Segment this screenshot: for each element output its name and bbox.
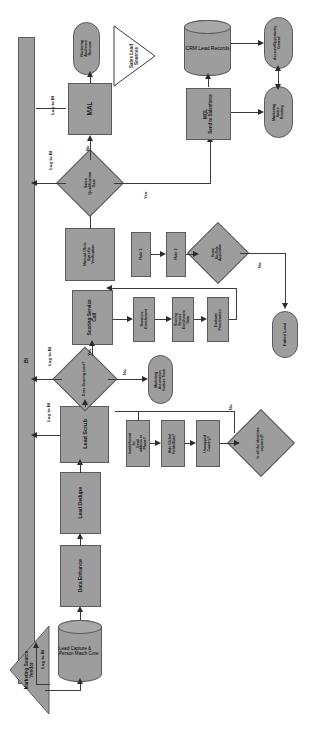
rule-2-label: Rule 2 <box>174 249 178 260</box>
bi-lane: BI <box>18 37 35 684</box>
edge-rule1-rule2 <box>151 254 160 255</box>
scoring-service-call-node: Scoring Service Call <box>72 290 113 345</box>
crm-lead-records-node: CRM Lead Records <box>184 20 231 76</box>
sales-lead-sources-label: Sales Lead Sources <box>112 25 157 87</box>
edge-label-log-to-bi-3: Log to BI <box>41 349 60 363</box>
lead-capture-label: Lead Capture & Person Match Core <box>59 646 101 656</box>
arrow-call-enrich <box>127 316 133 322</box>
edge-vendor-capture <box>45 690 80 691</box>
mql-send-node: MQL Send to Salesforce <box>186 88 231 140</box>
marketing-source-vendor-label: Marketing Source Vendor <box>8 625 50 715</box>
edge-label-yes-3: Yes <box>87 346 94 359</box>
identities-gate-label: Is all the identities captured? <box>237 419 285 467</box>
arrow-vendor-capture <box>77 678 83 684</box>
marketing-source-vendor-text: Marketing Source Vendor <box>24 651 34 690</box>
arrow-routing-account-up <box>275 65 281 71</box>
edge-vendor-capture-v <box>80 683 81 691</box>
arrow-scrub2-scrub3 <box>190 440 196 446</box>
bi-lane-label: BI <box>24 358 29 363</box>
crm-lead-records-label: CRM Lead Records <box>186 45 230 51</box>
scrub-step-2-label: Hide Global Fields/Data? <box>169 433 177 455</box>
mql-send-label: MQL Send to Salesforce <box>204 94 214 134</box>
mal-label: MAL <box>86 102 93 116</box>
edge-rule2-gate <box>186 254 193 255</box>
scrub-step-1-node: Invalid format for Email address or Phon… <box>126 420 150 467</box>
manual-rule-verification-node: Manual / Rule Specific Verification <box>65 228 115 281</box>
scoring-exists-gate: Does Scoring exist? <box>62 356 108 402</box>
edge-label-no-3: No <box>257 258 263 272</box>
edge-enhance-dedupe <box>80 538 81 546</box>
edge-label-log-to-bi-mal: Log to BI <box>44 98 63 112</box>
scrub-step-3-node: Unmapped Country? <box>196 420 220 467</box>
edge-scrub-rail <box>115 411 235 412</box>
edge-mql-crm <box>208 78 209 87</box>
edge-mal-bi <box>36 108 66 109</box>
evaluate-prioritization-label: Evaluate Prioritization <box>214 309 222 330</box>
edge-scrub-rail-v1 <box>138 411 139 421</box>
edge-gate-failed-h <box>240 253 285 254</box>
edge-label-no-1: No <box>85 142 91 155</box>
arrow-rule2-gate <box>193 251 199 257</box>
arrow-rule1-rule2 <box>160 251 166 257</box>
arrow-enhance-dedupe <box>77 533 83 539</box>
edge-vendor-to-bi <box>36 684 50 685</box>
lead-scrub-node: Lead Scrub <box>60 406 109 463</box>
rule-2-node: Rule 2 <box>166 232 186 277</box>
services-enrichment-node: Services Enrichment <box>133 297 155 342</box>
edge-gate-nurture <box>108 379 142 380</box>
edge-salesgate-mql-v <box>210 141 211 184</box>
arrow-scrub-gate <box>82 399 88 405</box>
scrub-step-3-label: Unmapped Country? <box>204 433 212 455</box>
services-enrichment-label: Services Enrichment <box>140 310 148 330</box>
arrow-scrub-bi <box>31 432 37 438</box>
arrow-vendor-to-bi <box>33 642 39 648</box>
score-no-rule-gate: Score No Rule Applicable <box>196 231 240 275</box>
arrow-crm-account <box>258 40 264 46</box>
edge-eval-rail-h <box>229 319 237 320</box>
edge-salesgate-mql-h <box>114 183 210 184</box>
arrow-enrich-data <box>166 316 172 322</box>
marketing-source-vendor: Marketing Source Vendor <box>8 625 50 715</box>
edge-salesgate-bi <box>36 183 66 184</box>
scrub-step-2-node: Hide Global Fields/Data? <box>161 420 185 467</box>
sales-qualification-gate-label: Sales Qualification Gate <box>66 159 114 207</box>
scoring-service-call-label: Scoring Service Call <box>87 299 98 335</box>
sales-qualification-gate: Sales Qualification Gate <box>66 159 114 207</box>
nurture-track-node: Marketing Automation Nurture Track <box>148 355 173 404</box>
nurture-audience-remove-label: Nurturing Audience Remove <box>80 36 93 61</box>
sales-qualification-gate-text: Sales Qualification Gate <box>84 162 96 204</box>
arrow-mql-routing <box>258 109 264 115</box>
edge-label-no-4: No <box>122 365 128 379</box>
edge-label-yes-1: Yes <box>143 188 151 202</box>
lead-dedupe-label: Lead Dedupe <box>78 487 84 518</box>
marketing-sales-routing-label: Marketing Sales Routing <box>272 99 285 126</box>
scoring-exists-gate-text: Does Scoring exist? <box>83 359 87 399</box>
arrow-data-eval <box>201 316 207 322</box>
arrow-scrub3-identities <box>234 440 240 446</box>
nurture-track-label: Marketing Automation Nurture Track <box>155 368 167 391</box>
arrow-eval-rail <box>106 285 112 291</box>
score-no-rule-gate-label: Score No Rule Applicable <box>196 231 240 275</box>
failed-lead-node: Failed Lead <box>272 311 298 358</box>
lead-capture-node: Lead Capture & Person Match Core <box>58 620 102 682</box>
edge-data-eval <box>194 319 201 320</box>
arrow-mql-crm <box>205 73 211 79</box>
edge-capture-enhance <box>80 612 81 620</box>
edge-eval-rail-v <box>236 288 237 320</box>
arrow-gate-bi <box>31 376 37 382</box>
scoring-exists-gate-label: Does Scoring exist? <box>62 356 108 402</box>
data-enhance-node: Data Enhance <box>60 545 101 607</box>
nurture-audience-remove-node: Nurturing Audience Remove <box>73 22 100 75</box>
manual-rule-verification-label: Manual / Rule Specific Verification <box>84 243 96 266</box>
identities-gate: Is all the identities captured? <box>237 419 285 467</box>
edge-crm-account <box>231 43 258 44</box>
arrow-capture-enhance <box>77 606 83 612</box>
scoring-enrichment-data-label: Scoring Service Enrichment Data <box>175 310 191 330</box>
failed-lead-label: Failed Lead <box>283 323 288 347</box>
edge-label-log-to-bi-1: Log to BI <box>34 652 53 666</box>
sales-lead-sources-text: Sales Lead Sources <box>129 44 139 68</box>
marketing-sales-routing-node: Marketing Sales Routing <box>264 86 293 138</box>
edge-enrich-data <box>155 319 166 320</box>
edge-call-enrich <box>113 319 127 320</box>
arrow-salesgate-mal <box>87 135 93 141</box>
